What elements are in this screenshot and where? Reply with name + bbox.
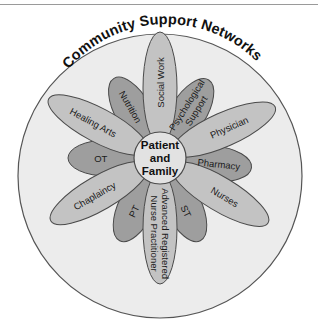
center-label-line: and <box>150 152 170 164</box>
petal-label-line: Nurse Practitioner <box>149 196 160 272</box>
petal-label-group: OT <box>94 153 107 164</box>
petal-label: OT <box>94 153 107 164</box>
petal-label-line: Social Work <box>155 57 166 108</box>
petal-label-group: Advanced RegisteredNurse Practitioner <box>149 188 171 279</box>
support-network-diagram: Community Support Networks Social WorkPs… <box>0 0 318 330</box>
center-label-line: Patient <box>141 139 180 151</box>
petal-label-group: Social Work <box>155 57 166 108</box>
petal-label: Social Work <box>155 57 166 108</box>
petal-label: Advanced RegisteredNurse Practitioner <box>149 188 171 279</box>
petal-label-line: Advanced Registered <box>160 188 171 279</box>
petal-label-line: OT <box>94 153 107 164</box>
center-label-line: Family <box>142 165 179 177</box>
